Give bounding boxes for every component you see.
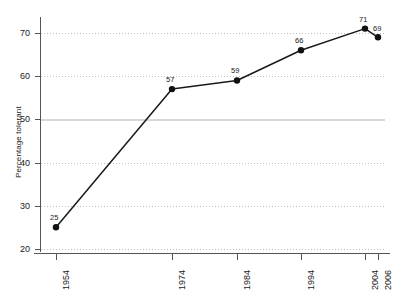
y-axis-ticks (35, 34, 40, 250)
data-label-1984: 59 (231, 66, 239, 75)
x-tick-label-1954: 1954 (61, 270, 71, 290)
data-label-2006: 69 (373, 24, 381, 33)
y-tick-label-60: 60 (8, 71, 30, 81)
data-label-1994: 66 (295, 36, 303, 45)
y-axis-title: Percentage tolerant (14, 106, 23, 178)
x-tick-label-1984: 1984 (242, 270, 252, 290)
data-label-1954: 25 (50, 213, 58, 222)
data-point-1974 (169, 86, 175, 92)
data-point-markers (53, 25, 381, 230)
data-label-2004: 71 (359, 15, 367, 24)
x-tick-label-1974: 1974 (177, 270, 187, 290)
data-line-series-0 (56, 29, 378, 228)
data-point-1954 (53, 224, 59, 230)
x-tick-label-2004: 2004 (370, 270, 380, 290)
line-chart: 70 60 50 40 30 20 1954 1974 1984 1994 20… (0, 0, 393, 296)
data-point-1984 (234, 77, 240, 83)
data-point-1994 (298, 47, 304, 53)
x-tick-label-2006: 2006 (383, 270, 393, 290)
x-axis-ticks (57, 254, 379, 261)
data-point-2004 (362, 25, 368, 31)
gridlines-horizontal (41, 34, 385, 250)
data-point-2006 (375, 34, 381, 40)
data-label-1974: 57 (166, 75, 174, 84)
y-tick-label-20: 20 (8, 244, 30, 254)
y-tick-label-70: 70 (8, 28, 30, 38)
y-tick-label-30: 30 (8, 201, 30, 211)
x-tick-label-1994: 1994 (306, 270, 316, 290)
plot-area (0, 0, 393, 296)
